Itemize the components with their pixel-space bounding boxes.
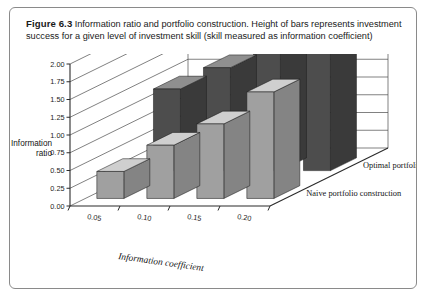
x-tick-0.05: 0.05 — [87, 212, 102, 223]
chart-svg: 0.000.250.500.751.001.251.501.752.00 0.0… — [10, 54, 416, 288]
y-tick-0.50: 0.50 — [50, 166, 64, 175]
x-tick-0.15: 0.15 — [187, 212, 202, 223]
y-tick-0.25: 0.25 — [50, 184, 64, 193]
figure-frame: Figure 6.3 Information ratio and portfol… — [9, 7, 417, 289]
chart-3d-bar: 0.000.250.500.751.001.251.501.752.00 0.0… — [10, 54, 416, 288]
series-label-optimal: Optimal portfolio construction — [363, 161, 416, 170]
bar-naive-0.15 — [197, 111, 250, 198]
y-axis-title-line2: ratio — [36, 149, 52, 158]
y-tick-1.50: 1.50 — [50, 95, 64, 104]
figure-caption: Figure 6.3 Information ratio and portfol… — [26, 18, 404, 43]
y-tick-1.25: 1.25 — [50, 113, 64, 122]
x-axis-title: Information coefficient — [117, 251, 205, 273]
y-tick-0.75: 0.75 — [50, 148, 64, 157]
figure-number: Figure 6.3 — [26, 18, 72, 29]
y-tick-1.00: 1.00 — [50, 131, 64, 140]
y-tick-1.75: 1.75 — [50, 77, 64, 86]
x-tick-0.10: 0.10 — [137, 212, 152, 223]
bar-naive-0.20 — [247, 79, 300, 198]
series-label-naive: Naive portfolio construction — [306, 189, 402, 198]
y-tick-0.00: 0.00 — [50, 202, 64, 211]
y-axis-title-line1: Information — [11, 139, 52, 148]
bar-naive-0.10 — [147, 132, 200, 198]
x-axis-tick-labels: 0.050.100.150.20 — [87, 212, 252, 223]
x-tick-0.20: 0.20 — [237, 212, 252, 223]
y-axis-tick-labels: 0.000.250.500.751.001.251.501.752.00 — [50, 60, 64, 211]
bar-optimal-0.20 — [303, 54, 356, 171]
figure-caption-text: Information ratio and portfolio construc… — [26, 19, 402, 41]
y-tick-2.00: 2.00 — [50, 60, 64, 69]
